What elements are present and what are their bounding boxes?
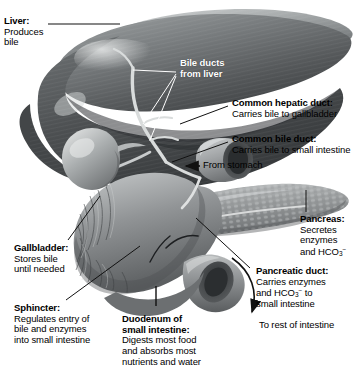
label-bile-ducts-line-1: from liver: [180, 69, 224, 80]
pancreatic-duct-formula-suffix: to: [302, 287, 312, 298]
label-pancreas: Pancreas: Secretes enzymes and HCO3−: [300, 214, 346, 257]
label-common-bile-duct: Common bile duct: Carries bile to small …: [232, 134, 350, 155]
label-to-rest-of-intestine-text: To rest of intestine: [259, 320, 334, 331]
label-pancreatic-duct-line-1: Carries enzymes: [256, 277, 328, 288]
label-common-hepatic-duct: Common hepatic duct: Carries bile to gal…: [232, 98, 337, 119]
label-from-stomach-text: From stomach: [203, 160, 263, 171]
pancreas-formula-sup: −: [342, 246, 346, 253]
label-pancreatic-duct: Pancreatic duct: Carries enzymes and HCO…: [256, 266, 328, 309]
label-liver: Liver: Produces bile: [4, 16, 43, 48]
label-duodenum-line-3: nutrients and water: [122, 357, 201, 368]
label-to-rest-of-intestine: To rest of intestine: [259, 320, 334, 331]
label-pancreas-line-2: enzymes: [300, 235, 346, 246]
label-bile-ducts: Bile ducts from liver: [180, 58, 224, 79]
pancreas-formula-prefix: and HCO: [300, 246, 339, 257]
label-gallbladder-line-2: until needed: [14, 264, 68, 275]
label-common-bile-duct-line-1: Carries bile to small intestine: [232, 145, 350, 156]
label-pancreatic-duct-last-line: small intestine: [256, 299, 328, 310]
anatomy-figure: Liver: Produces bile Bile ducts from liv…: [0, 0, 361, 373]
pancreatic-duct-formula-prefix: and HCO: [256, 287, 295, 298]
label-liver-line-2: bile: [4, 37, 43, 48]
label-duodenum: Duodenum of small intestine: Digests mos…: [122, 314, 201, 367]
label-pancreas-formula: and HCO3−: [300, 246, 346, 257]
label-gallbladder: Gallbladder: Stores bile until needed: [14, 243, 68, 275]
label-from-stomach: From stomach: [203, 160, 263, 171]
label-common-hepatic-duct-line-1: Carries bile to gallbladder: [232, 109, 337, 120]
label-duodenum-line-2: and absorbs most: [122, 346, 201, 357]
label-sphincter-line-3: into small intestine: [14, 335, 90, 346]
label-sphincter: Sphincter: Regulates entry of bile and e…: [14, 303, 90, 346]
label-pancreatic-duct-formula: and HCO3− to: [256, 287, 328, 298]
